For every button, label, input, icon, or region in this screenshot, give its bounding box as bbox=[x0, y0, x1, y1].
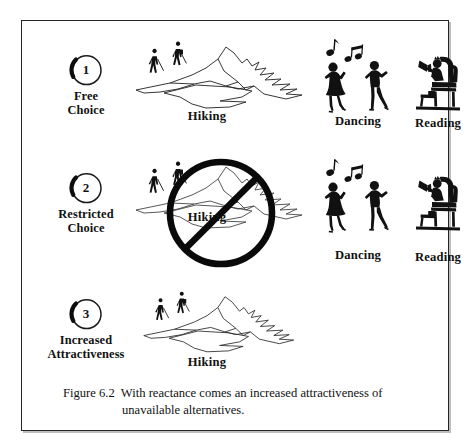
step-badge-1: 1 Free Choice bbox=[30, 53, 142, 117]
step-badge-2: 2 Restricted Choice bbox=[30, 171, 142, 235]
dancer-woman-icon bbox=[325, 183, 346, 233]
mountain-icon bbox=[142, 287, 300, 357]
hikers-icon bbox=[172, 42, 186, 66]
activity-hiking-increased-attractiveness: Hiking bbox=[142, 287, 300, 370]
condition-row-increased-attractiveness: 3 Increased Attractiveness bbox=[22, 279, 448, 384]
figure-caption: Figure 6.2 With reactance comes an incre… bbox=[63, 385, 423, 419]
dancing-couple-icon bbox=[317, 37, 399, 115]
dancing-couple-icon bbox=[317, 157, 399, 235]
activity-dancing-restricted: Dancing bbox=[317, 157, 399, 263]
activity-caption: Hiking bbox=[152, 355, 262, 370]
circle-number-badge-icon: 2 bbox=[69, 171, 103, 205]
mountain-icon bbox=[134, 37, 309, 113]
figure-frame: 1 Free Choice bbox=[21, 20, 449, 431]
condition-row-free-choice: 1 Free Choice bbox=[22, 31, 448, 151]
circle-number-badge-icon: 1 bbox=[69, 53, 103, 87]
activity-reading-free-choice: Reading bbox=[410, 49, 466, 131]
activity-caption: Reading bbox=[410, 250, 466, 265]
hikers-icon bbox=[172, 162, 186, 186]
activity-caption: Reading bbox=[410, 116, 466, 131]
step-number-label: 1 bbox=[69, 53, 103, 87]
person-reading-in-armchair-icon bbox=[410, 49, 466, 115]
step-number-label: 2 bbox=[69, 171, 103, 205]
dancer-man-icon bbox=[365, 181, 389, 231]
step-label-line-1: Restricted bbox=[30, 208, 142, 222]
step-label-line-1: Free bbox=[30, 90, 142, 104]
figure-caption-line-2: unavailable alternatives. bbox=[63, 402, 423, 419]
circle-number-badge-icon: 3 bbox=[69, 297, 103, 331]
activity-hiking-free-choice: Hiking bbox=[134, 37, 309, 124]
step-label-line-2: Attractiveness bbox=[30, 348, 142, 362]
step-label-line-2: Choice bbox=[30, 222, 142, 236]
music-notes-icon bbox=[325, 159, 363, 183]
hikers-icon bbox=[149, 169, 164, 193]
hikers-icon bbox=[149, 49, 164, 73]
person-reading-in-armchair-icon bbox=[410, 169, 466, 235]
step-label-line-2: Choice bbox=[30, 104, 142, 118]
figure-caption-line-1: Figure 6.2 With reactance comes an incre… bbox=[63, 385, 423, 402]
dancer-man-icon bbox=[365, 61, 389, 111]
activity-caption: Hiking bbox=[152, 210, 262, 225]
step-label-line-1: Increased bbox=[30, 334, 142, 348]
step-badge-3: 3 Increased Attractiveness bbox=[30, 297, 142, 361]
step-number-label: 3 bbox=[69, 297, 103, 331]
dancer-woman-icon bbox=[325, 63, 346, 113]
hikers-icon bbox=[155, 298, 168, 320]
activity-reading-restricted: Reading bbox=[410, 169, 466, 265]
activity-caption: Dancing bbox=[317, 114, 399, 129]
hikers-icon bbox=[177, 292, 190, 313]
condition-row-restricted-choice: 2 Restricted Choice bbox=[22, 151, 448, 276]
activity-dancing-free-choice: Dancing bbox=[317, 37, 399, 129]
activity-caption: Dancing bbox=[317, 248, 399, 263]
music-notes-icon bbox=[325, 39, 363, 63]
activity-hiking-restricted-unavailable: Hiking bbox=[134, 157, 309, 225]
